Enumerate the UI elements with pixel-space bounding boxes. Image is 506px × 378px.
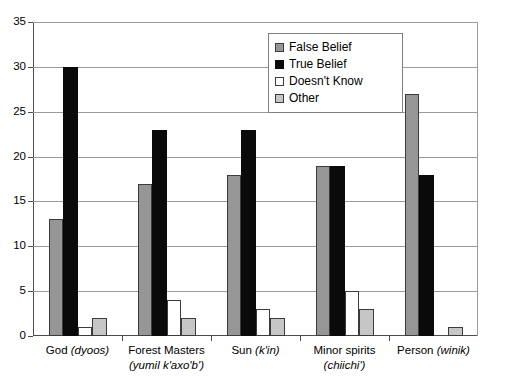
legend-item-doesnt-know: Doesn't Know: [275, 73, 395, 90]
x-axis-tick-mark: [122, 336, 123, 341]
legend-label-false-belief: False Belief: [289, 41, 352, 54]
y-axis-tick-label: 25: [2, 106, 26, 117]
bar: [256, 309, 271, 336]
legend-swatch-false-belief-icon: [275, 43, 284, 52]
bar: [419, 175, 434, 336]
y-axis-tick-label: 5: [2, 285, 26, 296]
legend-swatch-doesnt-know-icon: [275, 77, 284, 86]
bar: [270, 318, 285, 336]
bar: [359, 309, 374, 336]
y-axis-tick-label: 30: [2, 61, 26, 72]
bar: [448, 327, 463, 336]
bar: [405, 94, 420, 336]
bar: [167, 300, 182, 336]
x-axis-category-label: Sun (k'in): [211, 343, 300, 358]
legend-item-true-belief: True Belief: [275, 56, 395, 73]
y-axis-tick-label: 15: [2, 195, 26, 206]
grouped-bar-chart: 05101520253035 God (dyoos)Forest Masters…: [0, 0, 506, 378]
bar: [78, 327, 93, 336]
x-axis-category-labels: God (dyoos)Forest Masters(yumil k'axo'b'…: [33, 343, 478, 378]
bar: [138, 184, 153, 337]
x-axis-category-label: Forest Masters(yumil k'axo'b'): [122, 343, 211, 372]
legend-label-true-belief: True Belief: [289, 58, 347, 71]
chart-legend: False Belief True Belief Doesn't Know Ot…: [268, 33, 403, 113]
bar: [227, 175, 242, 336]
bar: [345, 291, 360, 336]
bar: [316, 166, 331, 336]
bar: [152, 130, 167, 336]
bar: [241, 130, 256, 336]
legend-swatch-other-icon: [275, 94, 284, 103]
bar: [49, 219, 64, 336]
bar: [181, 318, 196, 336]
y-axis-tick-mark: [28, 336, 33, 337]
y-axis-tick-label: 20: [2, 151, 26, 162]
y-axis-tick-label: 35: [2, 16, 26, 27]
legend-item-false-belief: False Belief: [275, 39, 395, 56]
legend-label-other: Other: [289, 92, 319, 105]
x-axis-tick-mark: [211, 336, 212, 341]
x-axis-tick-mark: [389, 336, 390, 341]
x-axis-tick-mark: [300, 336, 301, 341]
x-axis-category-label: Person (winik): [389, 343, 478, 358]
y-axis-tick-labels: 05101520253035: [0, 0, 26, 378]
bars-container: [33, 22, 478, 336]
y-axis-tick-label: 0: [2, 330, 26, 341]
bar: [92, 318, 107, 336]
x-axis-category-label: God (dyoos): [33, 343, 122, 358]
legend-label-doesnt-know: Doesn't Know: [289, 75, 363, 88]
legend-swatch-true-belief-icon: [275, 60, 284, 69]
legend-item-other: Other: [275, 90, 395, 107]
x-axis-category-label: Minor spirits(chiichi'): [300, 343, 389, 372]
bar: [330, 166, 345, 336]
y-axis-tick-label: 10: [2, 240, 26, 251]
bar: [63, 67, 78, 336]
